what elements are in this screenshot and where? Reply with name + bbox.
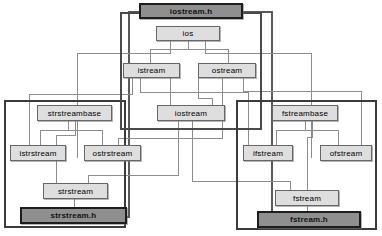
node-ostrstream[interactable]: ostrstream (84, 145, 141, 161)
cut-off-caption: ▁▁▁ ▁▁▁ ▁▁▁▁ (3, 0, 79, 2)
node-fstreambase[interactable]: fstreambase (272, 105, 338, 121)
edge-iostream-fstream-v1 (192, 121, 193, 181)
node-istream[interactable]: istream (123, 63, 180, 78)
edge-ostream-ostrstream-h (118, 138, 223, 139)
node-strstreambase[interactable]: strstreambase (37, 105, 112, 121)
node-ifstream[interactable]: ifstream (243, 145, 293, 161)
node-iostream-h[interactable]: iostream.h (139, 3, 243, 19)
edge-istream-istrstream-h (29, 94, 133, 95)
node-fstream[interactable]: fstream (275, 190, 339, 206)
node-fstream-h[interactable]: fstream.h (257, 211, 361, 228)
node-ios[interactable]: ios (156, 26, 220, 41)
node-strstream-h[interactable]: strstream.h (20, 207, 127, 224)
node-ostream[interactable]: ostream (198, 63, 256, 78)
node-strstream[interactable]: strstream (43, 183, 108, 199)
diagram-canvas: ▁▁▁ ▁▁▁ ▁▁▁▁ (0, 0, 382, 236)
node-ofstream[interactable]: ofstream (320, 145, 372, 161)
node-istrstream[interactable]: istrstream (10, 145, 66, 161)
node-iostream[interactable]: iostream (157, 105, 225, 121)
